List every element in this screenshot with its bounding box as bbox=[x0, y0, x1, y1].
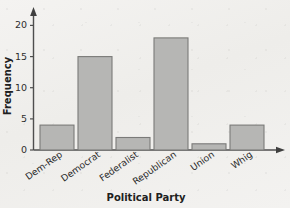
chart-canvas: 0 5 10 15 20 Dem-Rep Democrat Federalist… bbox=[0, 0, 290, 208]
y-tick-label-20: 20 bbox=[15, 19, 27, 30]
bar-chart-figure: 0 5 10 15 20 Dem-Rep Democrat Federalist… bbox=[0, 0, 290, 208]
x-tick-label-whig: Whig bbox=[229, 149, 254, 171]
x-tick-label-dem-rep: Dem-Rep bbox=[23, 149, 64, 182]
x-axis-arrow-icon bbox=[276, 147, 285, 153]
bar-republican bbox=[154, 38, 188, 150]
x-axis-title: Political Party bbox=[107, 192, 186, 203]
x-axis-tick-labels: Dem-Rep Democrat Federalist Republican U… bbox=[23, 148, 254, 186]
bar-series-frequency bbox=[40, 38, 264, 150]
y-tick-label-0: 0 bbox=[21, 144, 27, 155]
x-tick-label-union: Union bbox=[188, 149, 216, 173]
y-tick-label-15: 15 bbox=[15, 51, 27, 62]
x-tick-label-democrat: Democrat bbox=[59, 148, 103, 183]
y-axis-title: Frequency bbox=[2, 56, 13, 115]
y-tick-label-5: 5 bbox=[21, 113, 27, 124]
bar-dem-rep bbox=[40, 125, 74, 150]
y-tick-label-10: 10 bbox=[15, 82, 27, 93]
y-axis-arrow-icon bbox=[30, 7, 37, 16]
bar-democrat bbox=[78, 57, 112, 150]
y-axis-tick-labels: 0 5 10 15 20 bbox=[15, 19, 27, 155]
bar-whig bbox=[230, 125, 264, 150]
